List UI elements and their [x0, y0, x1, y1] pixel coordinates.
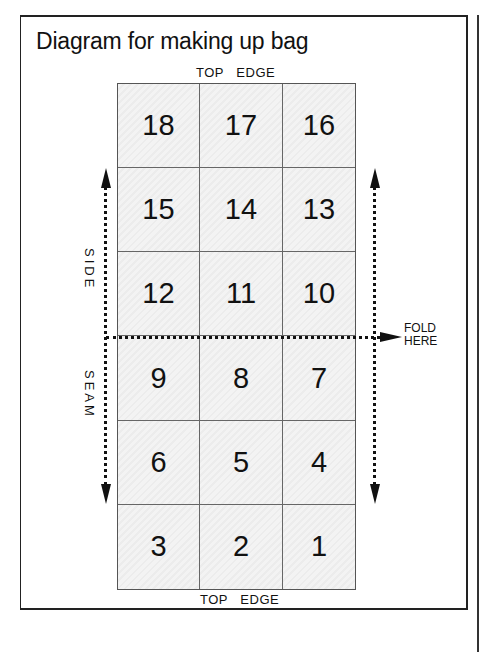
arrow-down-icon	[370, 484, 380, 504]
edge-word: EDGE	[240, 592, 279, 607]
grid-cell: 3	[118, 505, 200, 589]
edge-word: EDGE	[236, 65, 275, 80]
grid-cell: 6	[118, 421, 200, 505]
grid-cell: 4	[283, 421, 355, 505]
grid-cell: 14	[200, 168, 283, 252]
top-word: TOP	[200, 592, 228, 607]
arrow-up-icon	[370, 168, 380, 188]
grid-cell: 15	[118, 168, 200, 252]
grid-cell: 13	[283, 168, 355, 252]
arrow-right-icon	[380, 332, 402, 342]
here-word: HERE	[404, 335, 437, 348]
page-edge	[477, 15, 479, 652]
grid-cell: 12	[118, 252, 200, 336]
grid-cell: 9	[118, 336, 200, 420]
grid-cell: 18	[118, 84, 200, 168]
top-word: TOP	[196, 65, 224, 80]
grid-cell: 8	[200, 336, 283, 420]
top-edge-label-bottom: TOP EDGE	[200, 592, 279, 607]
fold-here-label: FOLD HERE	[404, 322, 437, 348]
grid-cell: 10	[283, 252, 355, 336]
fold-dotted-line	[106, 336, 380, 342]
grid-cell: 2	[200, 505, 283, 589]
arrow-up-icon	[101, 168, 111, 188]
grid-cell: 11	[200, 252, 283, 336]
grid-cell: 16	[283, 84, 355, 168]
grid-cell: 7	[283, 336, 355, 420]
grid-cell: 5	[200, 421, 283, 505]
top-edge-label-top: TOP EDGE	[196, 65, 275, 80]
grid-cell: 17	[200, 84, 283, 168]
arrow-down-icon	[101, 484, 111, 504]
diagram-title: Diagram for making up bag	[36, 28, 308, 55]
grid-cell: 1	[283, 505, 355, 589]
seam-label: SEAM	[82, 370, 97, 419]
side-label: SIDE	[82, 248, 97, 290]
